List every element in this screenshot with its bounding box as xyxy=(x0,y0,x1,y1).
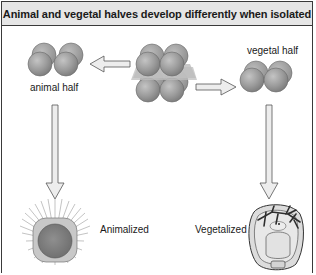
arrow-down-right-icon xyxy=(260,105,278,199)
vegetal-half-cells-icon xyxy=(240,61,292,92)
animal-half-cells-icon xyxy=(28,43,83,76)
animal-half-label: animal half xyxy=(30,82,78,93)
vegetalized-larva-icon xyxy=(249,205,304,270)
vegetal-half-label: vegetal half xyxy=(247,45,298,56)
animalized-larva-icon xyxy=(20,198,90,265)
animalized-label: Animalized xyxy=(100,224,149,235)
arrow-right-icon xyxy=(196,79,236,95)
vegetalized-label: Vegetalized xyxy=(195,224,247,235)
diagram-artwork xyxy=(0,0,316,275)
arrow-left-icon xyxy=(90,56,130,72)
arrow-down-left-icon xyxy=(46,105,64,199)
eight-cell-embryo-icon xyxy=(131,44,197,102)
